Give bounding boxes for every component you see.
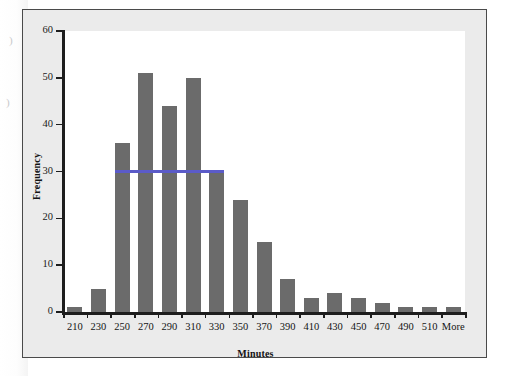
x-tick-label: 230 [91,321,107,332]
y-tick [56,124,63,126]
x-tick [110,312,112,318]
x-tick-label: 310 [185,321,201,332]
y-tick [56,264,63,266]
y-tick [56,171,63,173]
x-tick [134,312,136,318]
y-tick-label: 10 [25,258,53,269]
x-tick-label: 330 [209,321,225,332]
y-axis-title: Frequency [31,153,42,200]
y-tick-label: 50 [25,71,53,82]
y-tick [56,77,63,79]
x-tick [229,312,231,318]
x-tick-label: 430 [327,321,343,332]
y-tick [56,30,63,32]
x-tick-label: 490 [398,321,414,332]
x-tick [347,312,349,318]
x-tick-label: 290 [162,321,178,332]
x-tick [276,312,278,318]
x-tick [370,312,372,318]
bars-group [63,31,465,312]
x-tick-label: 470 [374,321,390,332]
x-tick [465,312,467,318]
bar [280,279,295,312]
bar [115,143,130,312]
bar [209,172,224,313]
bar [186,78,201,312]
x-axis-title: Minutes [23,348,488,359]
scan-mark: ) [6,96,10,108]
x-tick-label: 210 [67,321,83,332]
bar [375,303,390,312]
x-tick [181,312,183,318]
y-tick-label: 30 [25,165,53,176]
bar [351,298,366,312]
x-tick [205,312,207,318]
x-tick-label: More [442,321,465,332]
y-tick-label: 40 [25,118,53,129]
x-axis-labels: 2102302502702903103303503703904104304504… [45,321,485,337]
bar [91,289,106,312]
x-tick-label: 510 [422,321,438,332]
x-tick-label: 450 [351,321,367,332]
bar [304,298,319,312]
x-tick [323,312,325,318]
figure-frame: Frequency 0102030405060 2102302502702903… [22,9,487,358]
bar [138,73,153,312]
y-tick [56,311,63,313]
x-tick [158,312,160,318]
bar [162,106,177,312]
x-tick-label: 350 [232,321,248,332]
y-tick-label: 20 [25,211,53,222]
y-tick-label: 0 [25,305,53,316]
x-tick [418,312,420,318]
x-tick [252,312,254,318]
reference-line [115,170,225,173]
y-tick [56,218,63,220]
x-tick [299,312,301,318]
bar [327,293,342,312]
x-tick-label: 410 [303,321,319,332]
y-tick-label: 60 [25,24,53,35]
x-tick [63,312,65,318]
x-tick-label: 390 [280,321,296,332]
x-tick [441,312,443,318]
x-tick [394,312,396,318]
x-tick-label: 270 [138,321,154,332]
bar [257,242,272,312]
bar [233,200,248,312]
x-tick-label: 250 [114,321,130,332]
x-tick [87,312,89,318]
x-tick-label: 370 [256,321,272,332]
scan-mark: ) [9,34,13,46]
